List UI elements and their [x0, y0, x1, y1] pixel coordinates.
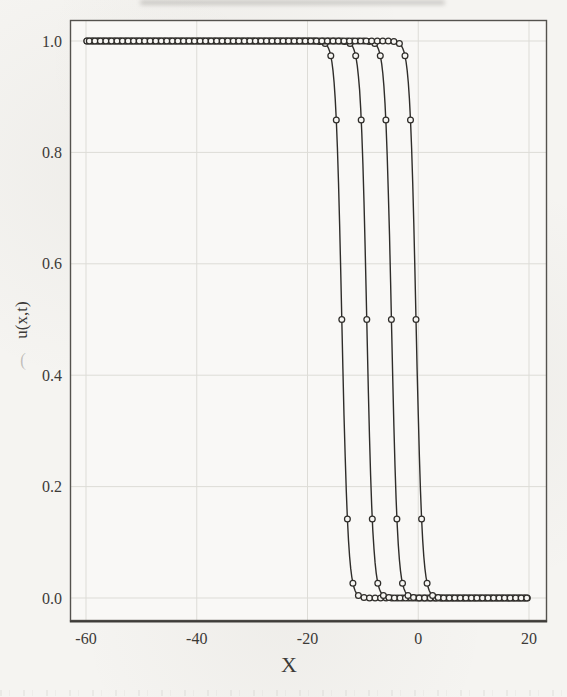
chart-canvas: 1.00.80.60.40.20.0-60-40-20020u(x,t)X: [0, 0, 567, 697]
data-point-marker: [175, 38, 181, 44]
data-point-marker: [424, 580, 430, 586]
data-point-marker: [389, 317, 395, 323]
data-point-marker: [408, 117, 414, 123]
figure: 1.00.80.60.40.20.0-60-40-20020u(x,t)X (: [0, 0, 567, 697]
data-point-marker: [358, 117, 364, 123]
data-point-marker: [485, 595, 491, 601]
data-point-marker: [377, 53, 383, 59]
data-point-marker: [333, 117, 339, 123]
data-point-marker: [369, 516, 375, 522]
data-point-marker: [383, 117, 389, 123]
y-tick-label: 0.6: [42, 255, 62, 272]
x-tick-label: -20: [297, 630, 318, 647]
data-point-marker: [369, 38, 375, 44]
data-point-marker: [86, 38, 92, 44]
data-point-marker: [208, 38, 214, 44]
data-point-marker: [236, 38, 242, 44]
y-tick-label: 1.0: [42, 33, 62, 50]
data-point-marker: [280, 38, 286, 44]
data-point-marker: [367, 595, 373, 601]
y-axis-title: u(x,t): [12, 301, 31, 338]
data-point-marker: [411, 595, 417, 601]
data-point-marker: [400, 580, 406, 586]
x-axis-title: X: [281, 652, 297, 677]
data-point-marker: [219, 38, 225, 44]
x-tick-label: -60: [75, 630, 96, 647]
data-point-marker: [364, 317, 370, 323]
data-point-marker: [264, 38, 270, 44]
data-point-marker: [120, 38, 126, 44]
x-tick-label: 0: [414, 630, 422, 647]
data-point-marker: [402, 53, 408, 59]
data-point-marker: [253, 38, 259, 44]
x-tick-label: 20: [521, 630, 537, 647]
data-point-marker: [328, 53, 334, 59]
data-point-marker: [413, 317, 419, 323]
data-point-marker: [430, 593, 436, 599]
scan-bleed-artifact: (: [20, 350, 26, 371]
data-point-marker: [356, 593, 362, 599]
data-point-marker: [518, 595, 524, 601]
data-point-marker: [392, 595, 398, 601]
y-tick-label: 0.2: [42, 478, 62, 495]
y-tick-label: 0.8: [42, 144, 62, 161]
y-tick-label: 0.0: [42, 590, 62, 607]
data-point-marker: [375, 580, 381, 586]
data-point-marker: [474, 595, 480, 601]
data-point-marker: [524, 595, 530, 601]
data-point-marker: [192, 38, 198, 44]
data-point-marker: [131, 38, 137, 44]
data-point-marker: [397, 41, 403, 47]
data-point-marker: [297, 38, 303, 44]
data-point-marker: [385, 38, 391, 44]
data-point-marker: [325, 38, 331, 44]
data-point-marker: [339, 317, 345, 323]
data-point-marker: [147, 38, 153, 44]
data-point-marker: [502, 595, 508, 601]
plot-background: [71, 21, 547, 621]
data-point-marker: [394, 516, 400, 522]
data-point-marker: [103, 38, 109, 44]
data-point-marker: [308, 38, 314, 44]
data-point-marker: [419, 516, 425, 522]
data-point-marker: [350, 580, 356, 586]
data-point-marker: [353, 53, 359, 59]
data-point-marker: [345, 516, 351, 522]
data-point-marker: [352, 38, 358, 44]
x-tick-label: -40: [186, 630, 207, 647]
data-point-marker: [457, 595, 463, 601]
data-point-marker: [164, 38, 170, 44]
data-point-marker: [441, 595, 447, 601]
y-tick-label: 0.4: [42, 367, 62, 384]
scan-artifact-bottom: [0, 690, 567, 696]
data-point-marker: [422, 595, 428, 601]
data-point-marker: [341, 38, 347, 44]
